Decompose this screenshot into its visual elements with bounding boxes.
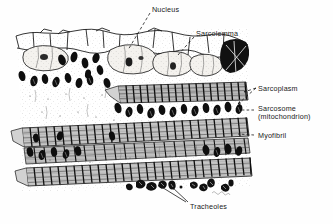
nucleus-2 [108,45,157,74]
figure-canvas: Nucleus Sarcolemma Sarcoplasm Sarcosome … [0,0,333,224]
label-tracheoles: Tracheoles [190,203,227,211]
leader-tracheoles [160,186,188,202]
label-sarcosome: Sarcosome (mitochondrion) [258,105,311,121]
artist-signature [212,192,230,196]
label-sarcosome-line2: (mitochondrion) [258,113,311,121]
label-nucleus: Nucleus [152,6,179,14]
label-sarcolemma: Sarcolemma [196,30,238,38]
nucleus-4 [190,54,222,76]
label-sarcoplasm: Sarcoplasm [258,85,298,93]
label-myofibril: Myofibril [258,132,286,140]
